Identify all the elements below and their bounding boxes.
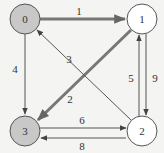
edge-3-2: 6 (40, 114, 126, 128)
edge-weight-2-1: 5 (128, 72, 134, 84)
node-label-3: 3 (22, 125, 28, 137)
edge-0-1: 1 (40, 5, 125, 19)
edge-1-2: 9 (146, 34, 158, 115)
edge-weight-0-3: 4 (12, 63, 18, 75)
node-0: 0 (10, 4, 40, 34)
edge-weight-0-1: 1 (76, 5, 82, 17)
node-label-2: 2 (139, 125, 145, 137)
edge-weight-2-3: 8 (79, 140, 85, 152)
node-3: 3 (10, 116, 40, 146)
node-1: 1 (127, 4, 157, 34)
node-label-0: 0 (22, 13, 28, 25)
edge-0-3: 4 (12, 34, 25, 114)
edge-weight-3-2: 6 (79, 114, 85, 126)
edge-weight-2-0: 3 (66, 53, 72, 65)
node-2: 2 (127, 116, 157, 146)
node-label-1: 1 (139, 13, 145, 25)
edge-weight-1-3: 2 (67, 93, 73, 105)
edge-2-1: 5 (128, 35, 139, 116)
edge-weight-1-2: 9 (152, 72, 158, 84)
edge-2-3: 8 (41, 138, 126, 152)
graph-diagram: 1 4 2 3 5 9 6 8 0 1 (0, 0, 164, 153)
